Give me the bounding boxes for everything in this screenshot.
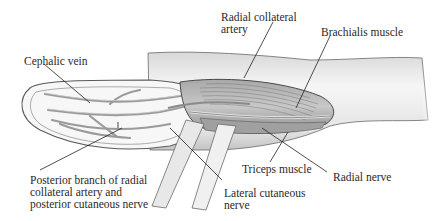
- label-posterior-branch-line1: Posterior branch of radial: [30, 175, 147, 186]
- label-radial-collateral-artery-line1: Radial collateral: [221, 12, 297, 23]
- label-lateral-cutaneous-line1: Lateral cutaneous: [224, 188, 305, 199]
- label-cephalic-vein: Cephalic vein: [24, 56, 88, 67]
- anatomy-figure: Cephalic vein Radial collateral artery B…: [0, 0, 436, 221]
- label-radial-collateral-artery-line2: artery: [221, 24, 248, 35]
- label-radial-nerve: Radial nerve: [333, 172, 391, 183]
- label-triceps-muscle: Triceps muscle: [242, 164, 312, 175]
- label-brachialis-muscle: Brachialis muscle: [321, 27, 403, 38]
- label-posterior-branch-line2: collateral artery and: [30, 187, 122, 198]
- label-posterior-branch-line3: posterior cutaneous nerve: [30, 199, 148, 210]
- label-lateral-cutaneous-line2: nerve: [224, 200, 250, 211]
